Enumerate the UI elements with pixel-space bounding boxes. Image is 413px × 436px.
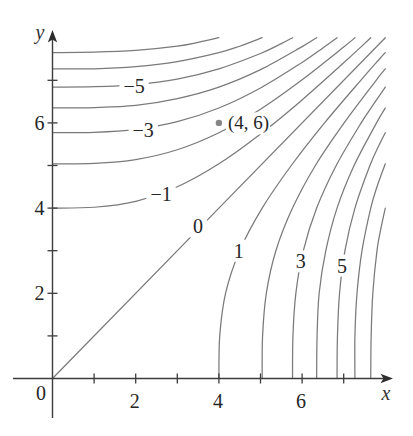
origin-label: 0 [36, 382, 46, 404]
contour-label-group: 3 [292, 250, 310, 272]
y-tick-label: 4 [35, 197, 45, 219]
contour-labels: −5−3−10135 [119, 75, 351, 277]
contour-label-group: 5 [333, 255, 351, 277]
contour-label: −1 [150, 183, 171, 205]
contour-label: −3 [133, 119, 154, 141]
point-label: (4, 6) [228, 112, 269, 134]
contour-label-group: −3 [129, 119, 158, 141]
y-tick-label: 6 [35, 112, 45, 134]
contour-line [53, 38, 386, 379]
contour-label-group: 1 [230, 240, 248, 262]
contour-label: 5 [337, 255, 347, 277]
x-tick-label: 6 [296, 390, 306, 412]
contour-label: −5 [123, 75, 144, 97]
contour-label: 0 [193, 215, 203, 237]
x-tick-label: 4 [213, 390, 223, 412]
contour-label-group: −1 [146, 183, 175, 205]
y-tick-label: 2 [35, 282, 45, 304]
contour-label-group: 0 [189, 215, 207, 237]
contour-line [371, 208, 386, 378]
point-marker-icon [216, 120, 222, 126]
contour-label: 3 [296, 250, 306, 272]
x-tick-label: 2 [130, 390, 140, 412]
contour-plot: −5−3−10135 246246 x y 0 (4, 6) [0, 0, 413, 436]
contour-label-group: −5 [119, 75, 148, 97]
axis-tick-labels: 246246 [35, 112, 307, 412]
x-axis-label: x [381, 382, 391, 404]
y-axis-label: y [34, 21, 45, 44]
highlighted-point: (4, 6) [216, 112, 270, 134]
contour-lines [53, 38, 386, 379]
contour-label: 1 [234, 240, 244, 262]
contour-line [53, 38, 219, 53]
